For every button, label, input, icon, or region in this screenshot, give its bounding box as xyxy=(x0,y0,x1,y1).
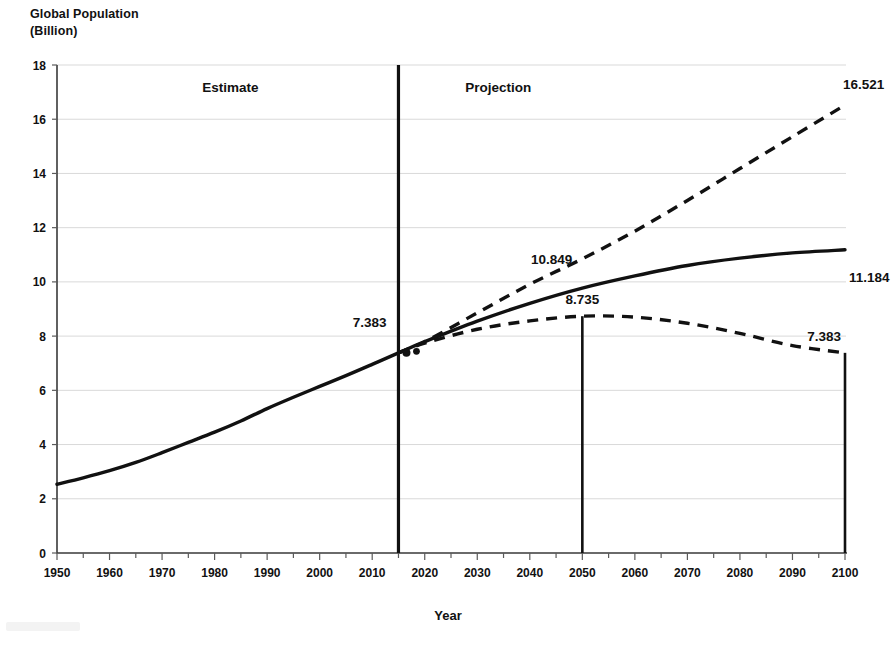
x-tick-label: 2020 xyxy=(411,566,438,580)
y-tick-labels: 024681012141618 xyxy=(33,59,47,561)
y-tick-label: 6 xyxy=(39,384,46,398)
region-label-estimate: Estimate xyxy=(202,80,259,95)
region-label-projection: Projection xyxy=(465,80,531,95)
y-tick-label: 16 xyxy=(33,113,47,127)
series-line-medium-variant xyxy=(398,250,845,353)
series-line-estimate xyxy=(57,353,398,484)
label-high-mid: 10.849 xyxy=(531,252,572,267)
chart-canvas: 024681012141618 195019601970198019902000… xyxy=(0,0,896,649)
y-tick-label: 4 xyxy=(39,438,46,452)
x-tick-label: 2060 xyxy=(622,566,649,580)
x-tick-label: 2010 xyxy=(359,566,386,580)
convergence-dot xyxy=(402,349,410,357)
gridlines xyxy=(57,65,846,499)
x-tick-label: 1980 xyxy=(201,566,228,580)
tick-marks xyxy=(52,65,845,560)
series-line-low-variant xyxy=(398,316,845,353)
x-tick-label: 2100 xyxy=(832,566,859,580)
y-tick-label: 0 xyxy=(39,547,46,561)
x-tick-label: 1950 xyxy=(44,566,71,580)
y-tick-label: 14 xyxy=(33,167,47,181)
series-line-high-variant xyxy=(398,105,845,353)
value-markers xyxy=(398,65,845,553)
x-tick-label: 2050 xyxy=(569,566,596,580)
y-tick-label: 2 xyxy=(39,492,46,506)
x-tick-label: 2030 xyxy=(464,566,491,580)
label-medium-end: 11.184 xyxy=(849,270,890,285)
convergence-dot xyxy=(413,348,420,355)
x-tick-label: 2090 xyxy=(779,566,806,580)
label-marker-2100: 7.383 xyxy=(807,329,841,344)
label-high-end: 16.521 xyxy=(843,77,885,92)
x-tick-label: 2080 xyxy=(727,566,754,580)
page-scan-smudge xyxy=(6,622,80,631)
x-tick-label: 1970 xyxy=(149,566,176,580)
y-tick-label: 10 xyxy=(33,275,47,289)
x-tick-label: 2070 xyxy=(674,566,701,580)
population-chart: Global Population (Billion) Year 0246810… xyxy=(0,0,896,649)
x-tick-label: 2000 xyxy=(306,566,333,580)
axis-lines xyxy=(57,65,847,553)
x-tick-label: 1990 xyxy=(254,566,281,580)
label-marker-2050: 8.735 xyxy=(565,292,599,307)
x-tick-label: 1960 xyxy=(96,566,123,580)
y-tick-label: 18 xyxy=(33,59,47,73)
y-tick-label: 8 xyxy=(39,330,46,344)
label-divider-value: 7.383 xyxy=(353,315,387,330)
x-tick-labels: 1950196019701980199020002010202020302040… xyxy=(44,566,859,580)
data-series xyxy=(57,105,845,484)
x-tick-label: 2040 xyxy=(516,566,543,580)
y-tick-label: 12 xyxy=(33,221,47,235)
annotations: EstimateProjection7.38316.52110.84911.18… xyxy=(202,77,890,344)
axes xyxy=(57,65,847,553)
